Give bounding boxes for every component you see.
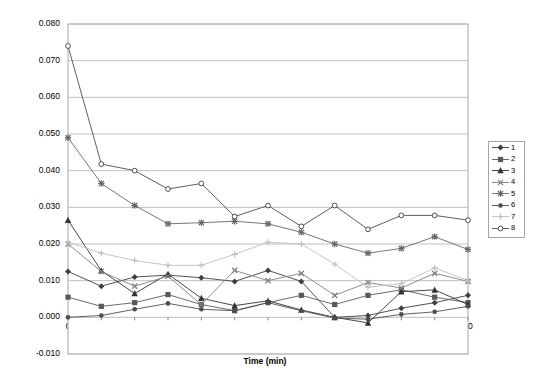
data-point-marker [466, 304, 471, 309]
data-point-marker [166, 187, 171, 192]
data-point-marker [132, 307, 137, 312]
data-point-marker [398, 245, 404, 251]
data-point-marker [498, 214, 504, 220]
legend: 12345678 [488, 141, 525, 238]
data-point-marker [166, 301, 171, 306]
data-point-marker [432, 310, 437, 315]
data-point-marker [198, 220, 204, 226]
legend-item-label: 5 [511, 190, 515, 198]
data-point-marker [199, 307, 204, 312]
data-point-marker [432, 295, 437, 300]
legend-marker-icon [491, 154, 510, 165]
data-point-marker [365, 250, 371, 256]
data-point-marker [65, 134, 71, 140]
legend-item-label: 6 [511, 201, 515, 209]
data-point-marker [498, 203, 503, 208]
legend-item-label: 2 [511, 155, 515, 163]
legend-marker-icon [491, 223, 510, 234]
data-point-marker [399, 312, 404, 317]
legend-item-label: 1 [511, 144, 515, 152]
data-point-marker [331, 241, 337, 247]
legend-item-8[interactable]: 8 [489, 223, 524, 235]
legend-item-1[interactable]: 1 [489, 142, 524, 154]
data-point-marker [497, 191, 503, 197]
data-point-marker [65, 295, 70, 300]
data-point-marker [232, 214, 237, 219]
legend-marker-icon [491, 211, 510, 222]
data-point-marker [298, 229, 304, 235]
data-point-marker [365, 293, 370, 298]
data-point-marker [132, 168, 137, 173]
data-point-marker [432, 213, 437, 218]
data-point-marker [266, 203, 271, 208]
data-point-marker [299, 308, 304, 313]
legend-item-6[interactable]: 6 [489, 200, 524, 212]
data-point-marker [232, 308, 237, 313]
data-point-marker [466, 218, 471, 223]
data-point-marker [99, 304, 104, 309]
data-point-marker [165, 292, 170, 297]
data-point-marker [498, 157, 503, 162]
legend-item-label: 8 [511, 224, 515, 232]
data-point-marker [498, 145, 504, 151]
chart-figure: counts x 103 x sec-1 Time (min) 0.0800.0… [0, 0, 545, 376]
data-point-marker [498, 226, 503, 231]
data-point-marker [131, 202, 137, 208]
legend-item-label: 3 [511, 167, 515, 175]
data-point-marker [431, 233, 437, 239]
data-point-marker [99, 162, 104, 167]
data-point-marker [332, 203, 337, 208]
data-point-marker [66, 315, 71, 320]
data-point-marker [332, 316, 337, 321]
data-point-marker [366, 317, 371, 322]
data-point-marker [199, 181, 204, 186]
legend-marker-icon [491, 177, 510, 188]
data-point-marker [299, 224, 304, 229]
data-point-marker [399, 213, 404, 218]
data-point-marker [98, 180, 104, 186]
legend-item-label: 7 [511, 213, 515, 221]
legend-item-4[interactable]: 4 [489, 177, 524, 189]
legend-marker-icon [491, 142, 510, 153]
data-point-marker [266, 300, 271, 305]
data-point-marker [265, 221, 271, 227]
legend-marker-icon [491, 200, 510, 211]
data-point-marker [465, 246, 471, 252]
legend-item-5[interactable]: 5 [489, 188, 524, 200]
data-point-marker [366, 227, 371, 232]
legend-item-2[interactable]: 2 [489, 154, 524, 166]
legend-marker-icon [491, 188, 510, 199]
plot-area [0, 0, 545, 376]
data-point-marker [332, 302, 337, 307]
data-point-marker [99, 313, 104, 318]
legend-item-3[interactable]: 3 [489, 165, 524, 177]
data-point-marker [299, 293, 304, 298]
legend-marker-icon [491, 165, 510, 176]
data-point-marker [132, 300, 137, 305]
legend-item-label: 4 [511, 178, 515, 186]
data-point-marker [165, 221, 171, 227]
legend-item-7[interactable]: 7 [489, 211, 524, 223]
data-point-marker [66, 44, 71, 49]
